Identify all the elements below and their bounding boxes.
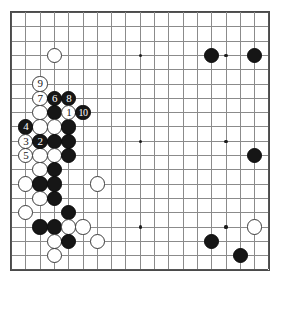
- stone-black-c5r9[interactable]: [61, 119, 76, 134]
- stone-white-c3r6[interactable]: 9: [32, 76, 47, 91]
- move-number-1: 1: [62, 106, 75, 119]
- stone-black-c4r14[interactable]: [47, 191, 62, 206]
- move-number-10: 10: [76, 106, 89, 119]
- stone-white-c6r16[interactable]: [75, 219, 90, 234]
- move-number-9: 9: [33, 77, 46, 90]
- stone-white-c3r7[interactable]: 7: [32, 91, 47, 106]
- stone-black-c3r16[interactable]: [32, 219, 47, 234]
- stone-white-c4r4[interactable]: [47, 48, 62, 63]
- go-board-container[interactable]: 97681104325: [0, 0, 295, 310]
- stone-white-c18r16[interactable]: [247, 219, 262, 234]
- stone-white-c3r14[interactable]: [32, 191, 47, 206]
- move-number-6: 6: [48, 92, 61, 105]
- stone-white-c2r10[interactable]: 3: [18, 134, 33, 149]
- stone-white-c4r9[interactable]: [47, 119, 62, 134]
- stone-white-c3r8[interactable]: [32, 105, 47, 120]
- stone-white-c7r17[interactable]: [90, 234, 105, 249]
- move-number-2: 2: [33, 135, 46, 148]
- move-number-5: 5: [19, 149, 32, 162]
- stone-white-c5r16[interactable]: [61, 219, 76, 234]
- stone-black-c4r7[interactable]: 6: [47, 91, 62, 106]
- move-number-8: 8: [62, 92, 75, 105]
- go-board[interactable]: 97681104325: [0, 0, 295, 310]
- move-number-4: 4: [19, 120, 32, 133]
- stone-white-c5r8[interactable]: 1: [61, 105, 76, 120]
- stone-black-c2r9[interactable]: 4: [18, 119, 33, 134]
- stone-white-c7r13[interactable]: [90, 176, 105, 191]
- stone-black-c4r13[interactable]: [47, 176, 62, 191]
- move-number-7: 7: [33, 92, 46, 105]
- stone-black-c3r13[interactable]: [32, 176, 47, 191]
- stone-white-c3r9[interactable]: [32, 119, 47, 134]
- stone-black-c4r16[interactable]: [47, 219, 62, 234]
- stone-white-c2r11[interactable]: 5: [18, 148, 33, 163]
- stone-black-c4r10[interactable]: [47, 134, 62, 149]
- stone-white-c3r11[interactable]: [32, 148, 47, 163]
- stone-black-c6r8[interactable]: 10: [75, 105, 90, 120]
- move-number-3: 3: [19, 135, 32, 148]
- stone-black-c5r7[interactable]: 8: [61, 91, 76, 106]
- stone-white-c4r17[interactable]: [47, 234, 62, 249]
- go-diagram-root: 97681104325: [0, 0, 295, 310]
- stone-black-c3r10[interactable]: 2: [32, 134, 47, 149]
